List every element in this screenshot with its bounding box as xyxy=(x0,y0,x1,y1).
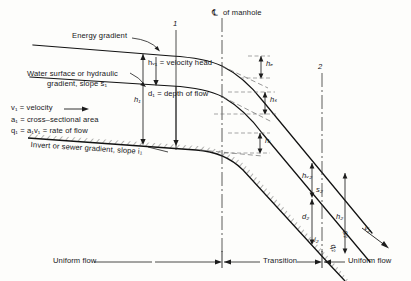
i2-label: i₂ xyxy=(314,236,319,245)
s2-label: s₂ xyxy=(316,186,323,195)
d2-label: d₂ xyxy=(302,213,309,222)
transition-left-arrowhead xyxy=(224,259,231,264)
transition-label: Transition xyxy=(263,257,297,266)
hs-arrowhead-top xyxy=(263,92,268,98)
hi-arrowhead-top xyxy=(258,133,263,139)
water-surface-label-line1: Water surface or hydraulic xyxy=(27,70,118,79)
depth-of-flow-label: d₁ = depth of flow xyxy=(148,90,208,99)
he-label: hₑ xyxy=(266,60,273,69)
water-surface-leader xyxy=(130,73,144,84)
velocity-definition-label: v₁ = velocity xyxy=(11,104,53,113)
hi-label: hᵢ xyxy=(265,137,270,146)
hv2-arrowhead-top xyxy=(310,163,315,169)
v2-flow-arrowhead xyxy=(381,241,389,249)
manhole-centerline-label: of manhole xyxy=(223,9,262,18)
area-definition-label: a₁ = cross–sectional area xyxy=(11,116,99,125)
velocity-head-label: hᵥ₁ = velocity head xyxy=(148,59,212,68)
v1-flow-arrowhead xyxy=(82,106,89,111)
h2-arrowhead-bottom xyxy=(343,249,348,255)
figure-linework xyxy=(0,0,411,281)
uniform-flow-left-label: Uniform flow xyxy=(53,257,96,266)
energy-gradient-label: Energy gradient xyxy=(72,32,127,41)
h1-label: h₁ xyxy=(134,96,141,105)
h1-arrowhead-top xyxy=(140,54,145,60)
hs-label: hₛ xyxy=(270,96,277,105)
he-arrowhead-top xyxy=(259,56,264,62)
uniform-flow-left-arrowhead xyxy=(215,259,222,264)
section-marker-1: 1 xyxy=(173,20,177,29)
centerline-symbol-icon: ℄ xyxy=(212,8,218,18)
section-marker-2: 2 xyxy=(318,63,322,72)
rate-definition-label: q₁ = a₁v₁ = rate of flow xyxy=(11,127,88,136)
d2-arrowhead-top xyxy=(310,199,315,205)
energy-gradient-leader xyxy=(132,38,158,49)
hv2-label: hᵥ₂ xyxy=(302,172,312,181)
water-surface-label-line2: gradient, slope s₁ xyxy=(47,80,107,89)
h2-arrowhead-top xyxy=(343,173,348,179)
h2-label: h₂ xyxy=(336,213,343,222)
hydraulic-transition-figure: Energy gradient Water surface or hydraul… xyxy=(0,0,411,281)
uniform-flow-right-label: Uniform flow xyxy=(348,257,391,266)
transition-right-arrowhead xyxy=(315,259,322,264)
